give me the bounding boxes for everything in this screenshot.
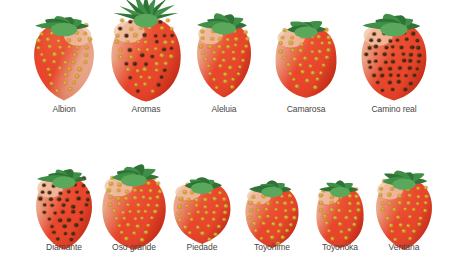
seed-highlight [170, 55, 172, 57]
seed-highlight [392, 88, 393, 89]
seed-highlight [144, 41, 145, 42]
seed-highlight [418, 60, 419, 61]
seed-highlight [116, 35, 117, 36]
seed-highlight [357, 202, 359, 203]
seed-highlight [424, 210, 425, 211]
seed-highlight [159, 191, 161, 192]
calyx-center [330, 187, 350, 197]
seed-highlight [136, 70, 137, 71]
seed-highlight [53, 232, 54, 233]
seed-highlight [195, 199, 197, 200]
seed-highlight [417, 187, 418, 188]
seed-highlight [191, 219, 192, 220]
seed-highlight [72, 233, 74, 234]
seed-highlight [165, 63, 167, 64]
seed-highlight [77, 198, 79, 200]
seed-highlight [140, 77, 141, 78]
seed-highlight [299, 50, 301, 51]
seed-highlight [290, 224, 291, 225]
seed-highlight [110, 183, 112, 185]
seed-highlight [208, 238, 209, 239]
seed-highlight [62, 211, 64, 212]
seed-highlight [425, 187, 426, 188]
seed-highlight [267, 230, 268, 231]
seed-highlight [400, 46, 402, 47]
seed-highlight [411, 46, 413, 48]
seed-highlight [116, 41, 117, 42]
seed-highlight [223, 198, 225, 199]
seed-highlight [72, 211, 74, 212]
seed-highlight [315, 58, 317, 60]
seed-highlight [144, 211, 145, 212]
seed-highlight [418, 54, 420, 56]
seed-highlight [349, 210, 350, 211]
seed-highlight [161, 27, 163, 29]
seed-highlight [69, 88, 70, 89]
seed-highlight [229, 67, 231, 68]
seed-highlight [152, 91, 153, 92]
seed-highlight [179, 219, 181, 220]
calyx-center [51, 22, 77, 36]
seed-highlight [43, 185, 44, 186]
seed-highlight [296, 85, 298, 86]
seed-highlight [393, 209, 395, 210]
seed-highlight [157, 84, 159, 85]
seed-highlight [80, 212, 81, 213]
seed-highlight [62, 204, 64, 205]
seed-highlight [369, 66, 370, 67]
seed-highlight [318, 36, 320, 37]
seed-highlight [137, 90, 138, 91]
seed-highlight [321, 42, 322, 43]
seed-highlight [249, 216, 250, 217]
calyx-center [52, 177, 75, 189]
seed-highlight [85, 54, 86, 55]
seed-highlight [368, 60, 369, 61]
seed-highlight [62, 52, 64, 53]
seed-highlight [284, 202, 286, 204]
seed-highlight [257, 209, 258, 210]
seed-highlight [56, 89, 58, 90]
seed-highlight [82, 185, 83, 186]
seed-highlight [345, 216, 347, 217]
seed-highlight [155, 48, 156, 49]
seed-highlight [408, 194, 410, 195]
seed-highlight [85, 204, 86, 205]
seed-highlight [223, 60, 224, 61]
seed-highlight [232, 79, 233, 80]
seed-highlight [392, 53, 393, 54]
seed-highlight [51, 205, 52, 206]
strawberry-illustration [167, 152, 237, 250]
seed-highlight [41, 53, 42, 54]
seed-highlight [202, 52, 203, 53]
seed-highlight [272, 223, 274, 224]
seed-highlight [404, 88, 406, 89]
seed-highlight [252, 196, 253, 197]
seed-highlight [345, 237, 347, 238]
seed-highlight [80, 219, 81, 220]
seed-highlight [398, 202, 400, 203]
seed-highlight [260, 237, 261, 238]
seed-highlight [164, 70, 165, 71]
seed-highlight [282, 37, 283, 38]
seed-highlight [281, 195, 282, 196]
seed-highlight [289, 73, 290, 74]
seed-highlight [64, 73, 66, 74]
seed-highlight [204, 198, 206, 200]
calyx-center [261, 187, 283, 197]
seed-highlight [213, 79, 214, 80]
seed-highlight [301, 71, 303, 72]
seed-highlight [331, 208, 333, 210]
seed-highlight [255, 230, 256, 231]
seed-highlight [155, 35, 156, 36]
seed-highlight [64, 81, 66, 82]
seed-highlight [413, 74, 414, 75]
seed-highlight [337, 202, 338, 203]
seed-highlight [409, 216, 410, 217]
seed-highlight [48, 45, 50, 47]
cultivar-label-toyonoka: Toyonoka [312, 242, 368, 252]
cultivar-label-camino-real: Camino real [358, 104, 430, 114]
seed-highlight [373, 32, 374, 33]
seed-highlight [290, 42, 292, 44]
cultivar-label-piedade: Piedade [171, 242, 234, 252]
seed-highlight [316, 78, 317, 79]
